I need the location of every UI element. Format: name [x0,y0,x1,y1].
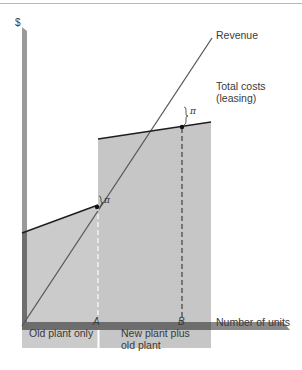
new-plant-region [98,122,211,348]
point-a-dot [95,205,99,209]
y-axis-label: $ [15,17,21,29]
point-a-label: A [93,316,100,328]
profit-brace-b [184,107,188,125]
profit-label-b: π [190,106,196,116]
revenue-label: Revenue [216,29,258,41]
leasing-label: (leasing) [216,92,256,104]
y-axis-dark-segment [22,232,27,328]
old-plant-region-label: Old plant only [29,327,93,339]
point-b-dot [180,125,184,129]
new-plant-region-label-1: New plant plus [121,327,190,339]
total-costs-label: Total costs [216,80,266,92]
new-plant-region-label-2: old plant [121,339,161,351]
profit-label-a: π [104,195,110,205]
leasing-diagram [0,0,302,370]
x-axis-label: Number of units [216,316,290,328]
